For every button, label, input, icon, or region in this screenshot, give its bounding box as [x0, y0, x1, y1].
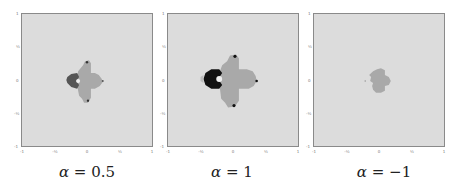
y-tick-label: 1 — [16, 12, 19, 16]
x-tick-label: ½ — [406, 150, 418, 154]
x-tick-label: -1 — [308, 150, 320, 154]
alpha-value: = 0.5 — [74, 163, 115, 181]
y-tick-label: 0 — [162, 79, 165, 83]
y-tick-label: ½ — [16, 45, 20, 49]
y-tick-label: -½ — [306, 112, 311, 116]
y-tick-label: -1 — [14, 145, 18, 149]
y-tick-label: 0 — [308, 79, 311, 83]
caption: α = 0.5 — [37, 163, 137, 181]
y-tick-label: -1 — [306, 145, 310, 149]
y-tick-label: -½ — [160, 112, 165, 116]
x-tick-label: 1 — [438, 150, 450, 154]
y-tick-label: 1 — [162, 12, 165, 16]
caption: α = 1 — [182, 163, 282, 181]
panel-alpha-0-5: 1 ½ 0 -½ -1 -1 -½ 0 ½ 1 α = 0.5 — [0, 0, 150, 188]
x-tick-label: 0 — [81, 150, 93, 154]
fractal-set-graphic — [168, 14, 298, 146]
y-tick-label: -1 — [160, 145, 164, 149]
plot-area — [313, 13, 445, 147]
y-tick-label: -½ — [14, 112, 19, 116]
x-tick-label: -½ — [49, 150, 61, 154]
y-tick-label: ½ — [308, 45, 312, 49]
plot-area — [21, 13, 153, 147]
alpha-value: = 1 — [226, 163, 253, 181]
x-tick-label: -1 — [16, 150, 28, 154]
alpha-symbol: α — [59, 163, 69, 181]
panel-alpha-minus-1: 1 ½ 0 -½ -1 -1 -½ 0 ½ 1 α = −1 — [292, 0, 442, 188]
caption: α = −1 — [334, 163, 434, 181]
y-tick-label: 1 — [308, 12, 311, 16]
fractal-set-graphic — [314, 14, 444, 146]
alpha-symbol: α — [357, 163, 367, 181]
x-tick-label: -½ — [341, 150, 353, 154]
x-tick-label: ½ — [114, 150, 126, 154]
x-tick-label: 0 — [373, 150, 385, 154]
alpha-symbol: α — [211, 163, 221, 181]
y-tick-label: ½ — [162, 45, 166, 49]
alpha-value: = −1 — [372, 163, 411, 181]
x-tick-label: -1 — [162, 150, 174, 154]
y-tick-label: 0 — [16, 79, 19, 83]
plot-area — [167, 13, 299, 147]
x-tick-label: 0 — [227, 150, 239, 154]
x-tick-label: -½ — [195, 150, 207, 154]
fractal-set-graphic — [22, 14, 152, 146]
x-tick-label: ½ — [260, 150, 272, 154]
panel-alpha-1: 1 ½ 0 -½ -1 -1 -½ 0 ½ 1 α = 1 — [146, 0, 296, 188]
